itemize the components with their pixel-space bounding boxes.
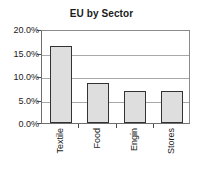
bar-textile — [50, 46, 72, 123]
y-axis-tick-label: 0.0% — [1, 119, 39, 129]
x-axis-category-label: Textile — [41, 128, 78, 170]
y-axis-tick-label: 10.0% — [1, 72, 39, 82]
y-axis-tick-label: 15.0% — [1, 49, 39, 59]
bar-chart: EU by Sector 20.0%15.0%10.0%5.0%0.0% Tex… — [0, 0, 203, 171]
x-axis-category-label: Stores — [153, 128, 190, 170]
x-axis-category-label: Food — [78, 128, 115, 170]
bar-stores — [161, 91, 183, 123]
y-axis-tick-label: 20.0% — [1, 25, 39, 35]
y-axis: 20.0%15.0%10.0%5.0%0.0% — [0, 30, 39, 124]
category-label-text: Food — [92, 128, 102, 149]
bar-engin — [124, 91, 146, 123]
category-label-text: Engin — [129, 128, 139, 151]
category-label-text: Textile — [55, 128, 65, 154]
chart-title: EU by Sector — [0, 8, 203, 19]
y-axis-tick-label: 5.0% — [1, 96, 39, 106]
plot-area — [41, 30, 190, 124]
x-axis-category-label: Engin — [116, 128, 153, 170]
x-axis-tick-mark — [78, 124, 79, 128]
category-label-text: Stores — [166, 128, 176, 154]
x-axis-tick-mark — [153, 124, 154, 128]
x-axis-tick-mark — [116, 124, 117, 128]
bar-food — [87, 83, 109, 123]
